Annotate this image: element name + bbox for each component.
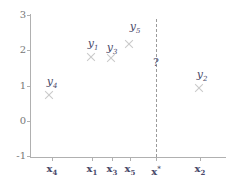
x-tick-mark-x3 [112, 158, 113, 161]
query-vertical-dashed-line [156, 19, 157, 157]
x-axis-label-x4-sub: 4 [53, 168, 58, 177]
x-tick-mark-x4 [52, 158, 53, 161]
y-tick-label-3: 3 [2, 10, 26, 20]
y-tick-mark-0 [27, 121, 30, 122]
x-tick-mark-x2 [200, 158, 201, 161]
data-point-y3-label-sub: 3 [113, 48, 117, 56]
data-point-y2-label-sub: 2 [203, 75, 207, 83]
x-axis-label-x2: x2 [195, 163, 206, 178]
x-axis-label-x4: x4 [47, 163, 58, 178]
y-tick-label-1-text: 1 [8, 81, 26, 91]
y-tick-label-minus1-text: -1 [8, 151, 26, 161]
data-point-y4-label: y4 [47, 76, 58, 92]
query-question-mark: ? [153, 57, 159, 68]
x-axis-label-x2-sub: 2 [201, 168, 206, 177]
data-point-y5-label: y5 [130, 21, 141, 37]
y-tick-label-0-text: 0 [8, 116, 26, 126]
y-tick-label-3-text: 3 [8, 10, 26, 20]
data-point-y2-label: y2 [197, 69, 208, 85]
y-tick-label-minus1: -1 [2, 151, 26, 161]
x-axis-label-x5-sub: 5 [131, 168, 136, 177]
data-point-y4-label-sub: 4 [53, 82, 57, 90]
x-axis-line [30, 157, 226, 158]
x-axis-label-xstar: x* [151, 163, 161, 177]
x-tick-mark-x5 [130, 158, 131, 161]
scatter-plot: 3 2 1 0 -1 x4 x1 x3 x5 x* x2 ? y4 y1 y3 … [0, 0, 231, 182]
y-tick-mark-1 [27, 86, 30, 87]
y-tick-mark-minus1 [27, 156, 30, 157]
y-tick-label-0: 0 [2, 116, 26, 126]
data-point-y1-label: y1 [88, 38, 99, 54]
x-axis-label-x1: x1 [87, 163, 98, 178]
x-tick-mark-xstar [156, 158, 157, 161]
data-point-y5-marker [123, 39, 134, 50]
data-point-y3-label: y3 [107, 42, 118, 58]
x-axis-label-xstar-sup: * [157, 164, 161, 173]
x-axis-label-x3-sub: 3 [113, 168, 118, 177]
y-tick-label-2: 2 [2, 45, 26, 55]
y-tick-mark-2 [27, 50, 30, 51]
data-point-y5-label-sub: 5 [136, 27, 140, 35]
x-axis-label-x5: x5 [125, 163, 136, 178]
y-tick-mark-3 [27, 15, 30, 16]
x-axis-label-x3: x3 [107, 163, 118, 178]
y-tick-label-1: 1 [2, 81, 26, 91]
y-tick-label-2-text: 2 [8, 45, 26, 55]
x-tick-mark-x1 [92, 158, 93, 161]
y-axis-line [30, 14, 31, 158]
x-axis-label-x1-sub: 1 [93, 168, 98, 177]
data-point-y1-label-sub: 1 [94, 44, 98, 52]
